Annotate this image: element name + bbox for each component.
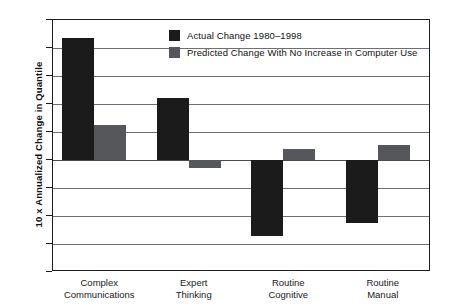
x-axis-category-line1: Complex — [81, 277, 119, 288]
bar-actual — [346, 160, 378, 223]
bar-actual — [251, 160, 283, 236]
x-axis-category-line1: Routine — [272, 277, 305, 288]
bar-actual — [62, 38, 94, 160]
y-tick-mark — [46, 187, 52, 188]
x-axis-category-line1: Routine — [366, 277, 399, 288]
bar-predicted — [378, 145, 410, 160]
bar-predicted — [189, 160, 221, 168]
legend-item: Predicted Change With No Increase in Com… — [169, 44, 417, 61]
x-axis-category-label: RoutineManual — [328, 277, 438, 300]
y-tick-mark — [46, 131, 52, 132]
legend: Actual Change 1980–1998Predicted Change … — [169, 27, 417, 61]
y-tick-mark — [46, 243, 52, 244]
bar-predicted — [283, 149, 315, 160]
y-axis-title: 10 x Annualized Change in Quantile — [33, 30, 44, 260]
bar-actual — [157, 98, 189, 160]
x-axis-category-line2: Cognitive — [233, 289, 343, 301]
x-axis-category-line2: Manual — [328, 289, 438, 301]
legend-label: Actual Change 1980–1998 — [187, 30, 302, 41]
x-axis-category-label: ComplexCommunications — [44, 277, 154, 300]
bar-predicted — [94, 125, 126, 160]
y-tick-mark — [46, 215, 52, 216]
legend-item: Actual Change 1980–1998 — [169, 27, 417, 44]
legend-label: Predicted Change With No Increase in Com… — [187, 47, 417, 58]
gridline — [53, 244, 429, 245]
x-axis-category-line2: Thinking — [139, 289, 249, 301]
x-axis-category-label: ExpertThinking — [139, 277, 249, 300]
y-tick-mark — [46, 75, 52, 76]
gridline — [53, 76, 429, 77]
x-axis-category-line1: Expert — [180, 277, 207, 288]
legend-swatch-icon — [169, 30, 180, 41]
x-axis-category-label: RoutineCognitive — [233, 277, 343, 300]
y-tick-mark — [46, 47, 52, 48]
y-tick-mark — [46, 19, 52, 20]
y-tick-mark — [46, 103, 52, 104]
legend-swatch-icon — [169, 47, 180, 58]
y-tick-mark — [46, 271, 52, 272]
bar-chart: 10 x Annualized Change in Quantile 54321… — [0, 0, 450, 306]
y-tick-mark — [46, 159, 52, 160]
x-axis-category-line2: Communications — [44, 289, 154, 301]
gridline — [53, 104, 429, 105]
